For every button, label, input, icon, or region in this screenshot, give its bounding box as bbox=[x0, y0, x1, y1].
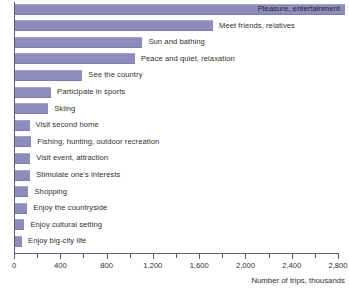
bar[interactable] bbox=[14, 219, 24, 230]
bar[interactable] bbox=[14, 170, 30, 181]
x-axis-tick bbox=[83, 254, 84, 258]
bar-category-label: Participate in sports bbox=[57, 86, 125, 97]
bar[interactable] bbox=[14, 186, 28, 197]
bar-category-label: Stimulate one's interests bbox=[36, 169, 120, 180]
bar[interactable] bbox=[14, 120, 30, 131]
plot-area: Pleasure, entertainmentMeet friends, rel… bbox=[0, 0, 349, 254]
x-axis-tick bbox=[60, 254, 61, 259]
bar[interactable] bbox=[14, 103, 48, 114]
x-axis-tick bbox=[130, 254, 131, 258]
x-axis-tick bbox=[315, 254, 316, 258]
x-axis-tick-label: 1,600 bbox=[190, 261, 209, 270]
x-axis-tick-label: 0 bbox=[12, 261, 16, 270]
bar-row: Pleasure, entertainment bbox=[0, 2, 349, 19]
bar-row: Meet friends, relatives bbox=[0, 18, 349, 35]
x-axis-tick bbox=[292, 254, 293, 259]
x-axis-tick bbox=[14, 254, 15, 259]
bar[interactable] bbox=[14, 87, 51, 98]
bar-category-label: See the country bbox=[88, 69, 142, 80]
x-axis-tick bbox=[107, 254, 108, 259]
bar-row: Enjoy big-city life bbox=[0, 234, 349, 251]
bar[interactable] bbox=[14, 70, 82, 81]
bar-row: Skiing bbox=[0, 101, 349, 118]
bar-row: Visit second home bbox=[0, 118, 349, 135]
bar-category-label: Enjoy the countryside bbox=[33, 202, 107, 213]
x-axis-tick bbox=[176, 254, 177, 258]
x-axis-tick bbox=[199, 254, 200, 259]
x-axis-tick-label: 2,000 bbox=[236, 261, 255, 270]
bar-row: Shopping bbox=[0, 184, 349, 201]
x-axis-tick bbox=[245, 254, 246, 259]
bar-category-label: Skiing bbox=[54, 103, 75, 114]
bar-category-label: Visit event, attraction bbox=[36, 152, 108, 163]
bar-category-label: Peace and quiet, relaxation bbox=[141, 53, 235, 64]
bar[interactable] bbox=[14, 53, 135, 64]
bar[interactable] bbox=[14, 236, 22, 247]
x-axis-tick bbox=[338, 254, 339, 259]
bar-row: Visit event, attraction bbox=[0, 151, 349, 168]
x-axis-tick bbox=[222, 254, 223, 258]
bar-category-label: Sun and bathing bbox=[148, 36, 204, 47]
x-axis-tick bbox=[153, 254, 154, 259]
bar[interactable] bbox=[14, 20, 213, 31]
x-axis-tick-label: 1,200 bbox=[143, 261, 162, 270]
bar-category-label: Meet friends, relatives bbox=[219, 20, 295, 31]
bar-category-label: Visit second home bbox=[36, 119, 99, 130]
bar-category-label: Fishing, hunting, outdoor recreation bbox=[37, 136, 159, 147]
y-axis-line bbox=[14, 2, 15, 254]
bar-row: Enjoy the countryside bbox=[0, 201, 349, 218]
bar[interactable] bbox=[14, 136, 31, 147]
bar-row: See the country bbox=[0, 68, 349, 85]
bar-row: Fishing, hunting, outdoor recreation bbox=[0, 134, 349, 151]
bar-row: Sun and bathing bbox=[0, 35, 349, 52]
x-axis-tick-label: 2,800 bbox=[328, 261, 347, 270]
bar[interactable] bbox=[14, 153, 30, 164]
x-axis-tick-label: 800 bbox=[100, 261, 113, 270]
bar-category-label: Pleasure, entertainment bbox=[258, 3, 340, 14]
x-axis-title: Number of trips, thousands bbox=[251, 276, 345, 286]
bar-category-label: Shopping bbox=[34, 186, 67, 197]
bar-chart: Pleasure, entertainmentMeet friends, rel… bbox=[0, 0, 349, 291]
bar-row: Peace and quiet, relaxation bbox=[0, 51, 349, 68]
bar-category-label: Enjoy cultural setting bbox=[30, 219, 102, 230]
bar[interactable] bbox=[14, 203, 27, 214]
x-axis-tick-label: 2,400 bbox=[282, 261, 301, 270]
x-axis-tick-label: 400 bbox=[54, 261, 67, 270]
bar-row: Enjoy cultural setting bbox=[0, 217, 349, 234]
bar-row: Participate in sports bbox=[0, 85, 349, 102]
bar[interactable] bbox=[14, 37, 142, 48]
x-axis-tick bbox=[37, 254, 38, 258]
x-axis-tick bbox=[269, 254, 270, 258]
bar-row: Stimulate one's interests bbox=[0, 168, 349, 185]
bar-category-label: Enjoy big-city life bbox=[28, 235, 86, 246]
